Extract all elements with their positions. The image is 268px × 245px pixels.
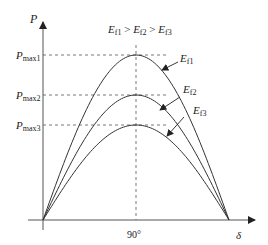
pmax3-label: Pmax3: [15, 119, 41, 133]
x-axis-label: δ: [236, 229, 242, 241]
pmax1-label: Pmax1: [15, 49, 41, 63]
x-tick-90: 90°: [127, 229, 141, 240]
condition-label: Ef1 > Ef2 > Ef3: [107, 23, 172, 37]
y-axis-label: P: [29, 12, 38, 26]
ef3-label: Ef3: [192, 104, 206, 118]
ef2-pointer-arrow: [160, 97, 180, 110]
diagram-svg: P δ 90° Ef1 > Ef2 > Ef3 Pmax1 Pmax2 Pmax…: [0, 0, 268, 245]
ef3-pointer-arrow: [167, 117, 184, 136]
pmax2-label: Pmax2: [15, 89, 41, 103]
ef2-label: Ef2: [182, 83, 196, 97]
ef1-label: Ef1: [179, 52, 193, 66]
ef1-pointer-arrow: [162, 62, 178, 70]
power-angle-diagram: P δ 90° Ef1 > Ef2 > Ef3 Pmax1 Pmax2 Pmax…: [0, 0, 268, 245]
